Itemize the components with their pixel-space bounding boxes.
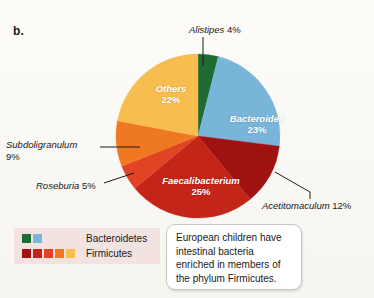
legend-row-bacteroidetes: Bacteroidetes bbox=[22, 231, 160, 246]
callout-label-subdoligranulum-pct: 9% bbox=[6, 151, 20, 162]
figure-panel: b. Others 22% Bacteroides 23% Faecalibac… bbox=[0, 0, 374, 298]
callout-box: European children have intestinal bacter… bbox=[166, 224, 302, 290]
callout-label-alistipes: Alistipes 4% bbox=[189, 24, 241, 36]
callout-label-alistipes-pct: 4% bbox=[224, 24, 240, 35]
pie-slice-group bbox=[116, 54, 280, 218]
legend-swatch-firmicutes-3 bbox=[55, 249, 64, 258]
legend-swatch-firmicutes-2 bbox=[44, 249, 53, 258]
legend-swatches-firmicutes bbox=[22, 249, 84, 258]
callout-label-acetitomaculum-name: Acetitomaculum bbox=[262, 200, 330, 211]
legend-swatch-firmicutes-4 bbox=[66, 249, 75, 258]
callout-label-acetitomaculum-pct: 12% bbox=[330, 200, 352, 211]
panel-letter-label: b. bbox=[13, 24, 24, 38]
callout-label-subdoligranulum: Subdoligranulum9% bbox=[6, 139, 102, 164]
legend-label-firmicutes: Firmicutes bbox=[86, 248, 132, 259]
callout-box-text: European children have intestinal bacter… bbox=[176, 231, 293, 285]
legend-label-bacteroidetes: Bacteroidetes bbox=[86, 233, 147, 244]
callout-label-roseburia-name: Roseburia bbox=[36, 180, 79, 191]
callout-label-roseburia: Roseburia 5% bbox=[36, 180, 96, 192]
callout-label-roseburia-pct: 5% bbox=[79, 180, 95, 191]
pie-chart bbox=[115, 53, 281, 219]
legend-swatches-bacteroidetes bbox=[22, 234, 84, 243]
legend-swatch-firmicutes-1 bbox=[33, 249, 42, 258]
legend-swatch-firmicutes-0 bbox=[22, 249, 31, 258]
callout-label-alistipes-name: Alistipes bbox=[189, 24, 224, 35]
legend-swatch-bacteroidetes-0 bbox=[22, 234, 31, 243]
pie-chart-svg bbox=[115, 53, 281, 219]
legend-row-firmicutes: Firmicutes bbox=[22, 246, 160, 261]
callout-label-acetitomaculum: Acetitomaculum 12% bbox=[262, 200, 351, 212]
legend-swatch-bacteroidetes-1 bbox=[33, 234, 42, 243]
legend: Bacteroidetes Firmicutes bbox=[14, 228, 160, 264]
callout-label-subdoligranulum-name: Subdoligranulum bbox=[6, 139, 77, 150]
